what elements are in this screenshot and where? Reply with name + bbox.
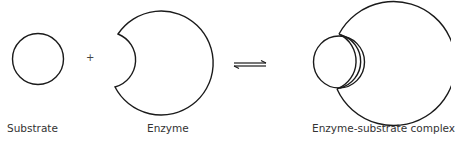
complex-substrate-circle	[314, 36, 365, 88]
enzyme-label: Enzyme	[147, 122, 189, 134]
equilibrium-arrows-icon	[234, 61, 266, 69]
enzyme-substrate-complex	[314, 2, 452, 126]
complex-enzyme-shape	[337, 2, 451, 126]
substrate-circle	[13, 34, 64, 85]
enzyme-shape	[115, 11, 213, 115]
substrate-label: Substrate	[7, 122, 58, 134]
complex-label: Enzyme-substrate complex	[312, 122, 455, 134]
plus-sign: +	[86, 52, 94, 63]
